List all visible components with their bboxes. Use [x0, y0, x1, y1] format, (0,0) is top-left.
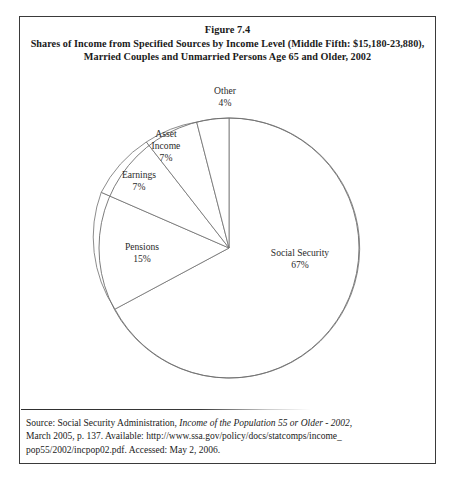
pie-chart-svg — [20, 17, 437, 407]
pie-chart: Other 4% Asset Income 7% Earnings 7% Pen… — [20, 17, 437, 407]
pie-label-other-name: Other — [214, 85, 236, 96]
pie-label-asset-income-value: 7% — [128, 152, 204, 164]
source-publication-title: Income of the Population 55 or Older - 2… — [179, 418, 352, 428]
pie-label-asset-income-name-2: Income — [128, 140, 204, 152]
figure-frame: Figure 7.4 Shares of Income from Specifi… — [19, 16, 436, 464]
source-line-1: Source: Social Security Administration, … — [26, 417, 430, 430]
source-line-2: March 2005, p. 137. Available: http://ww… — [26, 430, 430, 443]
source-line-1-prefix: Source: Social Security Administration, — [26, 418, 179, 428]
pie-label-pensions: Pensions 15% — [94, 241, 190, 265]
pie-label-social-security-name: Social Security — [271, 247, 329, 258]
footer-separator — [21, 409, 311, 410]
pie-label-other-value: 4% — [180, 97, 270, 109]
pie-label-asset-income-name-1: Asset — [155, 128, 176, 139]
pie-label-other: Other 4% — [180, 85, 270, 109]
pie-label-asset-income: Asset Income 7% — [128, 128, 204, 163]
pie-label-social-security: Social Security 67% — [240, 247, 360, 271]
pie-label-pensions-value: 15% — [94, 253, 190, 265]
pie-label-pensions-name: Pensions — [125, 241, 159, 252]
pie-label-earnings-name: Earnings — [122, 169, 156, 180]
source-note: Source: Social Security Administration, … — [26, 417, 430, 457]
pie-label-earnings-value: 7% — [95, 181, 183, 193]
pie-label-social-security-value: 67% — [240, 259, 360, 271]
pie-label-earnings: Earnings 7% — [95, 169, 183, 193]
source-line-3: pop55/2002/incpop02.pdf. Accessed: May 2… — [26, 444, 430, 457]
